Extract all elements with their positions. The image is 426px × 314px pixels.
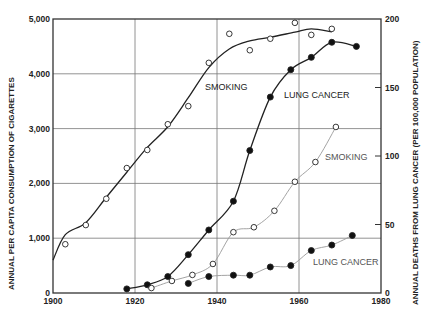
data-point-filled [247,148,253,154]
x-tick-label: 1940 [208,296,227,306]
fit-curve [151,127,336,288]
y-axis-left-label: ANNUAL PER CAPITA CONSUMPTION OF CIGARET… [7,77,16,290]
data-point-filled [308,248,314,254]
data-point-filled [230,198,236,204]
fit-curve [53,29,332,260]
data-point-filled [308,54,314,60]
series-labels: SMOKINGLUNG CANCERSMOKINGLUNG CANCER [205,82,379,267]
y-tick-label: 0 [45,288,50,298]
series-dark-smoking [53,20,335,260]
data-point-open [309,32,315,38]
data-point-open [190,272,196,278]
data-point-open [104,196,110,202]
y-tick-label: 5,000 [29,14,51,24]
y-tick-label: 4,000 [29,69,51,79]
data-point-filled [124,286,130,292]
y2-tick-label: 100 [385,151,399,161]
data-point-filled [329,39,335,45]
series-light-smoking [149,124,339,291]
data-point-filled [288,263,294,269]
data-point-filled [329,242,335,248]
fit-curve [127,42,357,289]
data-point-filled [247,272,253,278]
data-point-open [231,229,237,235]
data-point-filled [206,227,212,233]
y-tick-label: 3,000 [29,124,51,134]
data-point-filled [267,94,273,100]
data-point-open [292,179,298,185]
data-point-open [149,285,155,291]
data-point-open [247,47,253,53]
data-point-open [272,208,278,214]
x-tick-label: 1960 [290,296,309,306]
x-tick-label: 1920 [126,296,145,306]
y2-tick-label: 150 [385,83,399,93]
series-layer [53,20,359,292]
data-point-open [313,159,319,165]
y-axis-right-label: ANNUAL DEATHS FROM LUNG CANCER (PER 100,… [411,40,420,305]
y-tick-label: 1,000 [29,233,51,243]
data-point-filled [185,280,191,286]
data-point-open [186,103,192,109]
series-label: SMOKING [205,82,248,92]
data-point-filled [230,272,236,278]
x-axis-ticks: 19001920194019601980 [44,296,391,306]
data-point-open [124,165,130,171]
data-point-open [329,26,335,32]
data-point-open [83,222,89,228]
data-point-filled [267,264,273,270]
y2-tick-label: 0 [385,288,390,298]
data-point-open [292,20,298,26]
y-tick-label: 2,000 [29,178,51,188]
series-label: SMOKING [325,152,368,162]
y-axis-left-ticks: 01,0002,0003,0004,0005,000 [29,14,51,298]
data-point-open [251,224,257,230]
y2-tick-label: 200 [385,14,399,24]
series-label: LUNG CANCER [284,90,350,100]
data-point-open [206,60,212,66]
y-axis-right-ticks: 050100150200 [375,14,399,298]
y2-tick-label: 50 [385,220,395,230]
data-point-filled [349,232,355,238]
series-dark-lung-cancer [124,39,360,292]
data-point-open [210,261,216,267]
data-point-filled [288,67,294,73]
series-label: LUNG CANCER [313,257,379,267]
data-point-open [63,241,69,247]
data-point-open [227,31,233,37]
data-point-open [145,147,151,153]
chart: 19001920194019601980 01,0002,0003,0004,0… [0,0,426,314]
data-point-filled [206,274,212,280]
data-point-filled [353,43,359,49]
data-point-open [333,124,339,130]
data-point-open [165,121,171,127]
data-point-filled [185,252,191,258]
data-point-open [169,278,175,284]
data-point-open [268,36,274,42]
